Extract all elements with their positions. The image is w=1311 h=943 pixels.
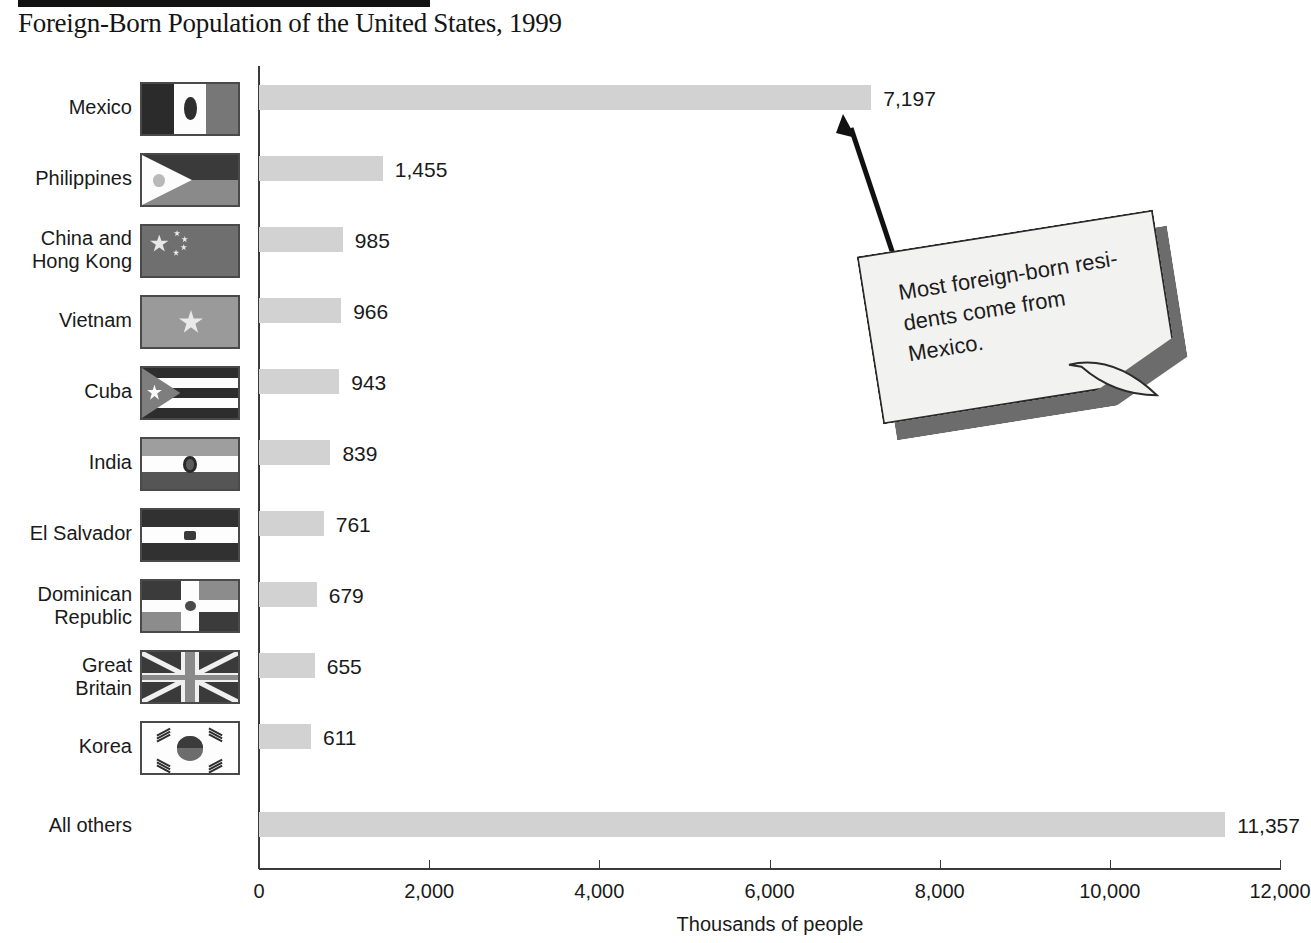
x-tick-mark [940, 860, 941, 869]
bar-value-label: 655 [327, 655, 362, 679]
flag-china-icon [140, 224, 240, 278]
bar-value-label: 1,455 [395, 158, 448, 182]
category-label: Philippines [0, 167, 132, 190]
category-label: Dominican Republic [0, 583, 132, 629]
bar-value-label: 985 [355, 229, 390, 253]
bar-value-label: 839 [342, 442, 377, 466]
x-axis-title: Thousands of people [259, 913, 1281, 936]
bar [259, 369, 339, 394]
flag-korea-icon [140, 721, 240, 775]
x-tick-mark [1280, 860, 1281, 869]
bar-value-label: 943 [351, 371, 386, 395]
category-label: Vietnam [0, 309, 132, 332]
bar [259, 227, 343, 252]
x-tick-label: 6,000 [744, 880, 794, 903]
bar-value-label: 761 [336, 513, 371, 537]
x-tick-label: 10,000 [1079, 880, 1140, 903]
x-tick-mark [1110, 860, 1111, 869]
bar-value-label: 679 [329, 584, 364, 608]
flag-great-britain-icon [140, 650, 240, 704]
note-curl-icon [1066, 346, 1160, 415]
bar [259, 653, 315, 678]
x-tick-mark [770, 860, 771, 869]
bar [259, 511, 324, 536]
bar [259, 812, 1225, 837]
category-label: China and Hong Kong [0, 227, 132, 273]
category-label: All others [0, 814, 132, 837]
flag-el-salvador-icon [140, 508, 240, 562]
category-label: Mexico [0, 96, 132, 119]
x-tick-mark [259, 860, 260, 869]
bar-value-label: 611 [323, 726, 356, 750]
bar [259, 724, 311, 749]
bar-value-label: 966 [353, 300, 388, 324]
bar [259, 582, 317, 607]
x-tick-label: 12,000 [1249, 880, 1310, 903]
bar [259, 85, 871, 110]
category-label: India [0, 451, 132, 474]
x-tick-label: 8,000 [915, 880, 965, 903]
bar-value-label: 7,197 [883, 87, 936, 111]
bar [259, 440, 330, 465]
x-tick-mark [429, 860, 430, 869]
flag-mexico-icon [140, 82, 240, 136]
x-tick-label: 2,000 [404, 880, 454, 903]
flag-cuba-icon [140, 366, 240, 420]
x-tick-label: 4,000 [574, 880, 624, 903]
flag-vietnam-icon [140, 295, 240, 349]
flag-philippines-icon [140, 153, 240, 207]
callout-note: Most foreign-born resi- dents come from … [868, 232, 1168, 404]
category-label: Great Britain [0, 654, 132, 700]
flag-india-icon [140, 437, 240, 491]
x-tick-mark [599, 860, 600, 869]
flag-dominican-republic-icon [140, 579, 240, 633]
bar [259, 298, 341, 323]
bar [259, 156, 383, 181]
bar-value-label: 11,357 [1237, 814, 1300, 838]
x-tick-label: 0 [253, 880, 264, 903]
category-label: Cuba [0, 380, 132, 403]
category-label: El Salvador [0, 522, 132, 545]
category-label: Korea [0, 735, 132, 758]
